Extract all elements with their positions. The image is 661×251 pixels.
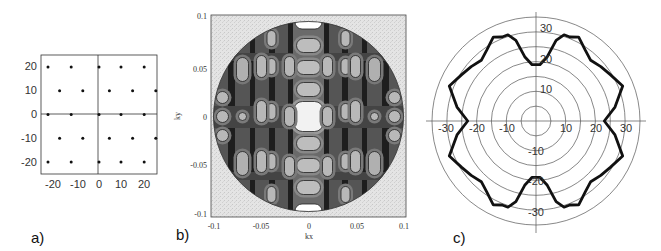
data-point xyxy=(120,161,123,164)
xtick: -10 xyxy=(499,122,515,134)
panel-b-contour: 0.1 0.05 0 -0.05 -0.1 -0.1 -0.05 0 0.05 … xyxy=(173,12,409,243)
data-point xyxy=(120,65,123,68)
data-point xyxy=(108,137,111,140)
ytick: 20 xyxy=(25,60,37,72)
data-point xyxy=(81,137,84,140)
xtick: -0.1 xyxy=(208,222,221,231)
panel-b-y-ticks: 0.1 0.05 0 -0.05 -0.1 xyxy=(190,12,207,219)
data-point xyxy=(70,161,73,164)
xtick: -0.05 xyxy=(253,222,270,231)
data-point xyxy=(47,65,50,68)
data-point xyxy=(70,113,73,116)
xtick: 0.05 xyxy=(350,222,364,231)
data-point xyxy=(120,113,123,116)
ytick: -0.05 xyxy=(190,161,207,170)
panel-b-label: b) xyxy=(176,226,189,243)
data-point xyxy=(98,65,101,68)
ytick: 10 xyxy=(25,84,37,96)
panel-a-x-ticks: -20 -10 0 10 20 xyxy=(45,178,150,190)
xtick: 0 xyxy=(96,178,102,190)
ytick: 0 xyxy=(203,113,207,122)
panel-b-x-ticks: -0.1 -0.05 0 0.05 0.1 xyxy=(208,222,409,231)
data-point xyxy=(70,65,73,68)
panel-a-scatter: 20 10 0 -10 -20 -20 -10 0 10 20 a) xyxy=(21,55,157,246)
xtick: 0.1 xyxy=(399,222,409,231)
ytick: 0.1 xyxy=(197,12,207,21)
ytick: -10 xyxy=(528,145,544,157)
data-point xyxy=(58,137,61,140)
ytick: -0.1 xyxy=(194,210,207,219)
xtick: 30 xyxy=(620,122,632,134)
data-point xyxy=(47,161,50,164)
data-point xyxy=(143,65,146,68)
ytick: -20 xyxy=(21,156,37,168)
data-point xyxy=(143,113,146,116)
data-point xyxy=(154,137,157,140)
data-point xyxy=(98,113,101,116)
panel-c-label: c) xyxy=(453,229,466,246)
data-point xyxy=(58,89,61,92)
data-point xyxy=(131,89,134,92)
panel-a-points xyxy=(47,65,158,163)
data-point xyxy=(154,89,157,92)
data-point xyxy=(108,89,111,92)
panel-b-xlabel: kx xyxy=(305,232,313,241)
xtick: 10 xyxy=(560,122,572,134)
xtick: -30 xyxy=(438,122,454,134)
ytick: 30 xyxy=(540,22,552,34)
xtick: 20 xyxy=(590,122,602,134)
ytick: -10 xyxy=(21,132,37,144)
panel-c-polar: -30 -20 -10 10 20 30 30 20 10 -10 -20 -3… xyxy=(426,12,646,246)
data-point xyxy=(98,161,101,164)
xtick: -20 xyxy=(469,122,485,134)
figure-canvas: 20 10 0 -10 -20 -20 -10 0 10 20 a) xyxy=(0,0,661,251)
data-point xyxy=(143,161,146,164)
ytick: -30 xyxy=(528,206,544,218)
data-point xyxy=(81,89,84,92)
panel-b-ylabel: ky xyxy=(173,112,182,120)
xtick: -10 xyxy=(70,178,86,190)
data-point xyxy=(47,113,50,116)
ytick: -20 xyxy=(528,175,544,187)
ytick: 0 xyxy=(31,108,37,120)
data-point xyxy=(131,137,134,140)
xtick: 0 xyxy=(307,222,311,231)
ytick: 10 xyxy=(540,83,552,95)
panel-a-y-ticks: 20 10 0 -10 -20 xyxy=(21,60,37,168)
xtick: -20 xyxy=(45,178,61,190)
ytick: 0.05 xyxy=(193,65,207,74)
panel-a-label: a) xyxy=(31,229,44,246)
xtick: 10 xyxy=(115,178,127,190)
xtick: 20 xyxy=(138,178,150,190)
ytick: 20 xyxy=(540,53,552,65)
